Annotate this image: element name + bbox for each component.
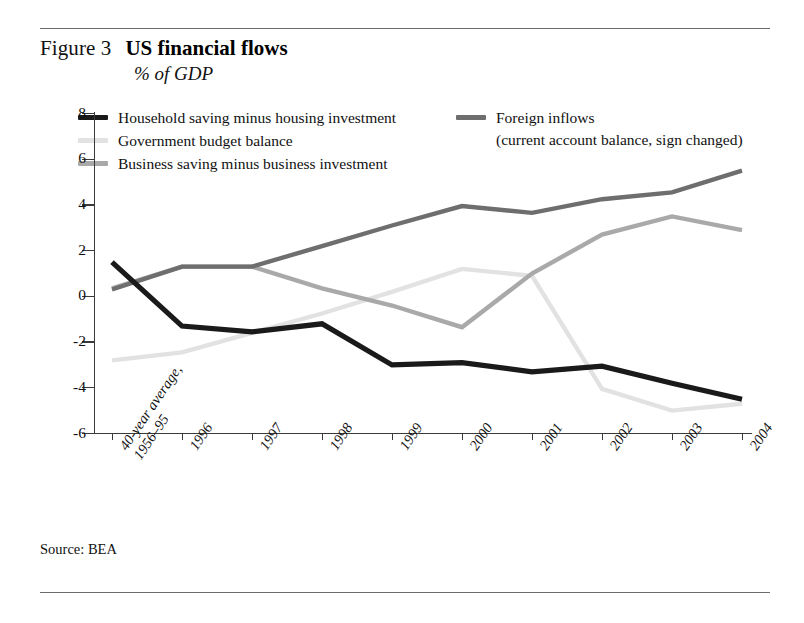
figure-page: Figure 3 US financial flows % of GDP Hou…: [0, 0, 804, 623]
series-lines: [0, 0, 804, 623]
source-note: Source: BEA: [40, 541, 117, 558]
series-line-foreign: [112, 171, 742, 290]
series-line-government: [112, 269, 742, 411]
series-line-household: [112, 262, 742, 399]
series-line-business: [112, 216, 742, 327]
plot-area: 86420-2-4-6 40-year average, 1956–951996…: [0, 0, 804, 623]
